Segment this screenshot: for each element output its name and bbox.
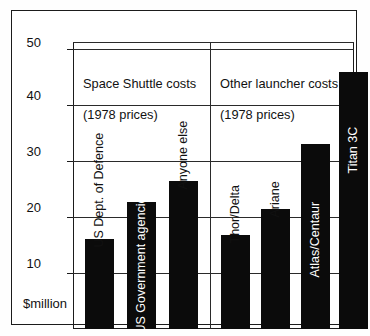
bar-label-anyone-else: Anyone else — [177, 121, 190, 190]
y-axis-units-label: $million — [23, 297, 67, 310]
y-axis-label-40: 40 — [1, 89, 41, 102]
y-axis-label-10: 10 — [1, 257, 41, 270]
bar-label-thor-delta: Thor/Delta — [229, 185, 242, 243]
panel-caption-right-line1: Other launcher costs — [220, 76, 338, 92]
bar-anyone-else[interactable] — [169, 181, 198, 329]
bar-label-ariane: Ariane — [269, 181, 282, 217]
y-tick-20 — [67, 217, 73, 218]
y-tick-40 — [67, 105, 73, 106]
y-axis-label-30: 30 — [1, 145, 41, 158]
bar-ariane[interactable] — [261, 209, 290, 329]
y-axis-label-20: 20 — [1, 201, 41, 214]
y-tick-50 — [67, 49, 73, 50]
y-tick-30 — [67, 161, 73, 162]
panel-caption-right-line2: (1978 prices) — [220, 107, 338, 123]
group-divider — [210, 42, 211, 329]
bar-label-us-government-agencies: US Government agencies — [135, 190, 148, 333]
bar-label-us-dept-of-defence: US Dept. of Defence — [93, 133, 106, 248]
plot-area: Space Shuttle costs (1978 prices) Other … — [73, 42, 354, 329]
bar-titan-3c[interactable] — [339, 72, 368, 329]
gridline-top — [73, 42, 354, 43]
gridline-50 — [73, 49, 354, 50]
panel-caption-left-line1: Space Shuttle costs — [83, 76, 196, 92]
bar-thor-delta[interactable] — [221, 235, 250, 329]
bar-label-atlas-centaur: Atlas/Centaur — [309, 202, 322, 278]
bar-chart-figure: 50 40 30 20 10 $million — [0, 0, 370, 336]
y-tick-10 — [67, 273, 73, 274]
figure-frame: 50 40 30 20 10 $million — [11, 10, 357, 325]
y-axis-label-50: 50 — [1, 36, 41, 49]
bar-us-dept-of-defence[interactable] — [85, 239, 114, 329]
bar-label-titan-3c: Titan 3C — [347, 127, 360, 174]
panel-caption-right: Other launcher costs (1978 prices) — [220, 60, 338, 138]
